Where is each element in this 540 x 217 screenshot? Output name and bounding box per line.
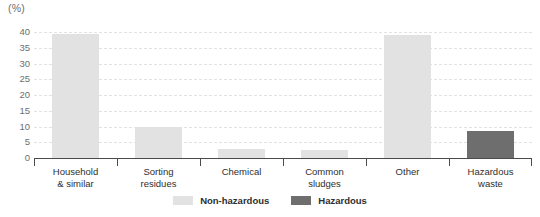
y-axis-tick-label: 0 xyxy=(25,153,30,163)
x-axis-category-labels: Household& similarSortingresiduesChemica… xyxy=(34,166,532,192)
x-axis-tick xyxy=(117,159,118,166)
legend-label: Hazardous xyxy=(318,195,367,206)
chart-legend: Non-hazardousHazardous xyxy=(0,195,540,206)
x-axis-category-label: Household& similar xyxy=(34,166,117,189)
y-axis-tick-label: 10 xyxy=(19,122,30,132)
x-axis-tick xyxy=(531,159,532,166)
y-axis-tick-labels: 0510152025303540 xyxy=(0,32,30,158)
x-axis-tick xyxy=(200,159,201,166)
x-axis-tick xyxy=(34,159,35,166)
bar xyxy=(52,34,99,158)
bar xyxy=(218,149,265,158)
x-axis-category-label-line: sludges xyxy=(283,178,366,190)
bars-group xyxy=(34,32,532,158)
x-axis-category-label-line: & similar xyxy=(34,178,117,190)
legend-item[interactable]: Hazardous xyxy=(291,195,367,206)
x-axis-category-label: Chemical xyxy=(200,166,283,178)
bar xyxy=(135,127,182,158)
legend-swatch-icon xyxy=(291,196,311,205)
x-axis-category-label-line: residues xyxy=(117,178,200,190)
x-axis-tick xyxy=(366,159,367,166)
x-axis-category-label-line: Hazardous xyxy=(449,166,532,178)
x-axis-tick xyxy=(449,159,450,166)
y-axis-tick-label: 40 xyxy=(19,27,30,37)
y-axis-tick-label: 20 xyxy=(19,90,30,100)
x-axis-category-label-line: Chemical xyxy=(200,166,283,178)
x-axis-category-label: Commonsludges xyxy=(283,166,366,189)
x-axis-category-label-line: Sorting xyxy=(117,166,200,178)
x-axis-category-label-line: Household xyxy=(34,166,117,178)
bar xyxy=(467,131,514,158)
x-axis-category-label-line: waste xyxy=(449,178,532,190)
bar xyxy=(384,35,431,158)
bar xyxy=(301,150,348,159)
y-axis-unit-label: (%) xyxy=(8,2,25,14)
x-axis-category-label: Other xyxy=(366,166,449,178)
x-axis-tick xyxy=(283,159,284,166)
bar-chart: (%) 0510152025303540 Household& similarS… xyxy=(0,0,540,217)
x-axis-category-label: Hazardouswaste xyxy=(449,166,532,189)
x-axis-category-label-line: Common xyxy=(283,166,366,178)
y-axis-tick-label: 25 xyxy=(19,75,30,85)
y-axis-tick-label: 30 xyxy=(19,59,30,69)
x-axis-category-label: Sortingresidues xyxy=(117,166,200,189)
y-axis-tick-label: 35 xyxy=(19,43,30,53)
legend-swatch-icon xyxy=(173,196,193,205)
legend-item[interactable]: Non-hazardous xyxy=(173,195,269,206)
y-axis-tick-label: 5 xyxy=(25,138,30,148)
x-axis xyxy=(34,158,532,166)
x-axis-category-label-line: Other xyxy=(366,166,449,178)
y-axis-tick-label: 15 xyxy=(19,106,30,116)
legend-label: Non-hazardous xyxy=(200,195,269,206)
